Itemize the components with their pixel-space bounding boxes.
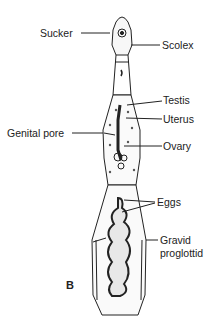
label-ovary: Ovary	[163, 140, 191, 152]
figure-letter: B	[66, 279, 74, 291]
label-eggs: Eggs	[157, 196, 181, 208]
label-genital-pore: Genital pore	[7, 127, 64, 139]
label-proglottid: proglottid	[160, 247, 203, 259]
label-gravid: Gravid	[160, 234, 191, 246]
label-scolex: Scolex	[162, 39, 194, 51]
label-sucker: Sucker	[40, 27, 73, 39]
label-uterus: Uterus	[163, 113, 194, 125]
label-testis: Testis	[163, 94, 190, 106]
